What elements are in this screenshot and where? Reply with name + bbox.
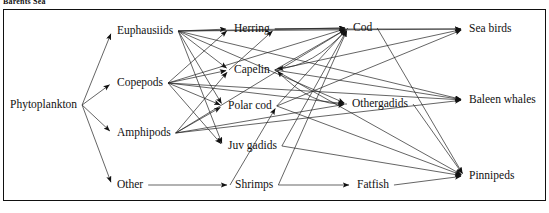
edge-amphipods-to-cod [176, 30, 346, 133]
edge-polar_cod-to-pinnipeds [277, 106, 461, 175]
edge-polar_cod-to-cod [277, 30, 346, 106]
edge-fatfish-to-pinnipeds [394, 176, 461, 185]
edge-capelin-to-cod [275, 29, 346, 70]
node-phytoplankton: Phytoplankton [10, 98, 77, 111]
node-other: Other [117, 178, 143, 190]
node-cod: Cod [353, 21, 372, 33]
node-baleen_whales: Baleen whales [469, 93, 536, 105]
edge-copepods-to-cod [168, 29, 345, 83]
node-euphausiids: Euphausiids [117, 24, 174, 37]
edge-amphipods-to-capelin [176, 72, 227, 133]
node-herring: Herring [234, 22, 270, 35]
food-web-figure: Barents Sea PhytoplanktonEuphausiidsCope… [0, 0, 549, 213]
node-shrimps: Shrimps [235, 178, 274, 191]
edge-amphipods-to-baleen_whales [176, 100, 461, 133]
edge-phytoplankton-to-amphipods [82, 105, 110, 131]
edge-othergadids-to-pinnipeds [413, 104, 462, 174]
node-othergadids: Othergadids [352, 97, 409, 110]
node-polar_cod: Polar cod [228, 99, 272, 111]
node-juv_gadids: Juv gadids [228, 139, 277, 152]
node-amphipods: Amphipods [117, 126, 171, 139]
node-fatfish: Fatfish [357, 178, 389, 190]
node-sea_birds: Sea birds [469, 22, 512, 34]
node-copepods: Copepods [117, 76, 164, 89]
edge-shrimps-to-cod [278, 31, 346, 185]
food-web-graph: PhytoplanktonEuphausiidsCopepodsAmphipod… [0, 0, 549, 213]
edge-capelin-to-sea_birds [275, 30, 461, 70]
edge-copepods-to-capelin [168, 71, 226, 83]
edge-phytoplankton-to-other [82, 105, 111, 182]
edge-capelin-to-pinnipeds [275, 70, 462, 175]
edge-copepods-to-baleen_whales [168, 83, 461, 100]
node-pinnipeds: Pinnipeds [469, 169, 515, 182]
node-capelin: Capelin [234, 63, 270, 76]
edge-juv_gadids-to-pinnipeds [282, 146, 461, 176]
edge-copepods-to-herring [168, 31, 227, 83]
edge-copepods-to-juv_gadids [168, 83, 221, 144]
